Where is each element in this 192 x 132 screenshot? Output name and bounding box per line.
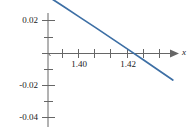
y-tick-label-neg0.04: -0.04 xyxy=(1,113,38,122)
x-tick-label-1.42: 1.42 xyxy=(110,60,146,69)
y-tick-label-neg0.02: -0.02 xyxy=(1,81,38,90)
chart-figure: 0.02 -0.02 -0.04 1.40 1.42 x xyxy=(0,0,192,132)
x-tick-label-1.40: 1.40 xyxy=(61,60,97,69)
x-axis-arrow-icon xyxy=(170,50,179,58)
y-tick-label-0.02: 0.02 xyxy=(4,16,38,25)
x-axis-label: x xyxy=(182,48,186,57)
